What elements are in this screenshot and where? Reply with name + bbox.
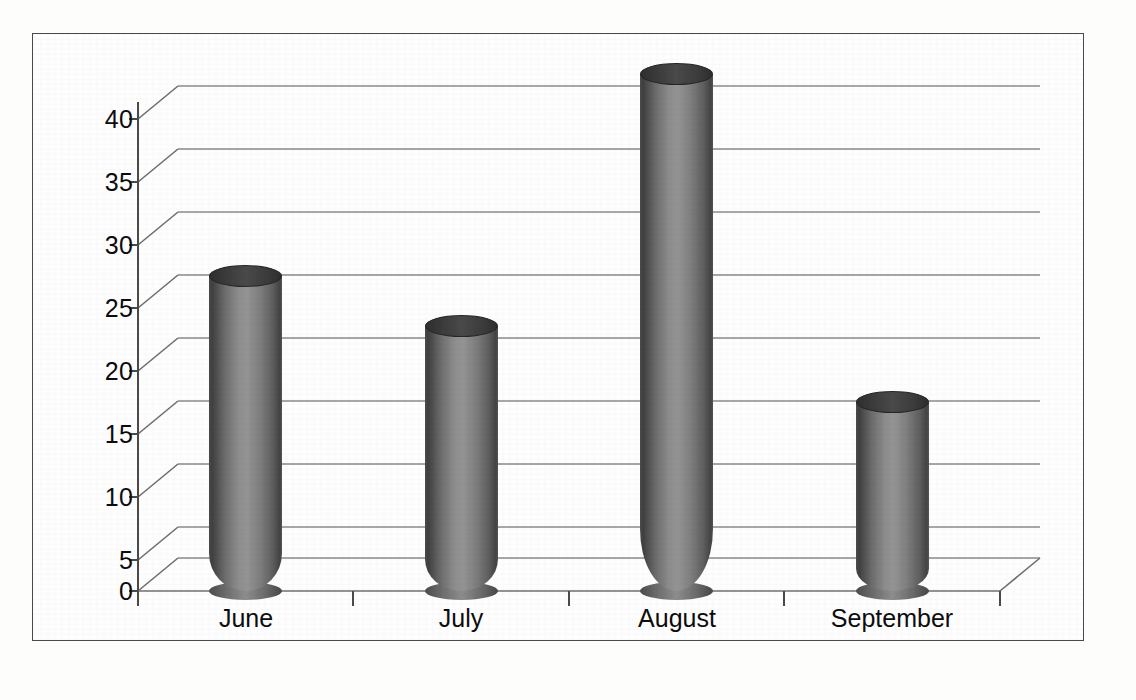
depth-line-35: [138, 149, 178, 182]
x-category-label-july: July: [439, 604, 483, 633]
chart-root: 40 35 30 25 20 15 10 5 0 June July Augus…: [0, 0, 1136, 700]
y-tick-label-35: 35: [55, 170, 133, 195]
depth-line-30: [138, 212, 178, 245]
bar-july-body: [425, 326, 498, 591]
depth-line-25: [138, 275, 178, 308]
x-category-label-september: September: [831, 604, 953, 633]
bar-august[interactable]: [640, 74, 713, 591]
depth-line-5: [138, 527, 178, 560]
depth-line-0: [138, 558, 178, 591]
y-tick-label-5: 5: [55, 548, 133, 573]
y-tick-label-30: 30: [55, 233, 133, 258]
bar-july[interactable]: [425, 326, 498, 591]
bar-june-cap: [209, 265, 282, 287]
x-axis-labels: June July August September: [33, 594, 1085, 642]
depth-line-40: [138, 86, 178, 119]
x-category-label-august: August: [638, 604, 716, 633]
depth-line-20: [138, 338, 178, 371]
bar-september-body: [856, 402, 929, 591]
depth-line-10: [138, 464, 178, 497]
y-tick-label-25: 25: [55, 296, 133, 321]
bar-august-body: [640, 74, 713, 591]
x-category-label-june: June: [219, 604, 273, 633]
chart-frame: 40 35 30 25 20 15 10 5 0 June July Augus…: [32, 33, 1084, 641]
floor-right-edge: [1000, 558, 1040, 591]
y-tick-label-20: 20: [55, 359, 133, 384]
bar-september-cap: [856, 391, 929, 413]
bar-june-body: [209, 276, 282, 591]
y-tick-label-15: 15: [55, 422, 133, 447]
y-tick-label-40: 40: [55, 107, 133, 132]
bar-june[interactable]: [209, 276, 282, 591]
depth-connectors: [138, 86, 178, 591]
y-axis-labels: 40 35 30 25 20 15 10 5 0: [33, 34, 133, 642]
depth-line-15: [138, 401, 178, 434]
bar-september[interactable]: [856, 402, 929, 591]
y-tick-label-10: 10: [55, 485, 133, 510]
